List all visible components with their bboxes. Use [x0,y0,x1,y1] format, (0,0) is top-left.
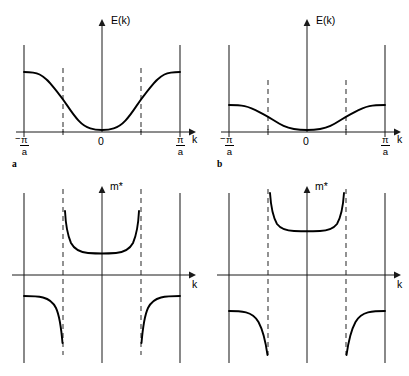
panel-d-svg [205,185,409,376]
mass-curve-right-negative [347,311,386,355]
y-axis-arrow [304,186,311,193]
y-axis-label-text: m* [315,180,328,192]
x-axis-label: k [192,279,197,290]
left-zone-tick-label: − π a [20,135,29,156]
numerator: π [176,135,185,145]
y-axis-arrow [304,19,311,26]
minus-sign: − [15,134,21,144]
y-axis-label-text: m* [110,180,123,192]
panel-b-energy-band: E(k) k 0 − π a π a b [205,0,409,188]
panel-a-svg [0,0,205,188]
figure-root: E(k) k 0 − π a π a a [0,0,409,376]
panel-label-b: b [217,160,222,170]
mass-curve-left-negative [229,311,268,355]
origin-label: 0 [303,136,309,147]
origin-label: 0 [98,136,104,147]
panel-c-svg [0,185,205,376]
y-axis-arrow [99,19,106,26]
panel-c-effective-mass: m* k [0,185,205,376]
y-axis-label-effective-mass: m* [315,181,328,192]
left-zone-tick-label: − π a [225,135,234,156]
numerator: π [20,135,29,145]
minus-sign: − [220,134,226,144]
x-axis-label: k [397,279,402,290]
y-axis-arrow [99,186,106,193]
denominator: a [176,147,185,157]
numerator: π [381,135,390,145]
mass-curve-left-negative [24,296,63,343]
panel-b-svg [205,0,409,188]
y-axis-label: E(k) [316,15,335,26]
right-zone-tick-label: π a [381,135,390,156]
denominator: a [20,147,29,157]
y-axis-label: E(k) [111,15,130,26]
y-axis-label-effective-mass: m* [110,181,123,192]
numerator: π [225,135,234,145]
x-axis-label: k [397,134,402,145]
panel-d-effective-mass: m* k [205,185,409,376]
panel-a-energy-band: E(k) k 0 − π a π a a [0,0,205,188]
x-axis-label: k [192,134,197,145]
mass-curve-right-negative [142,296,181,343]
right-zone-tick-label: π a [176,135,185,156]
denominator: a [381,147,390,157]
panel-label-a: a [12,160,17,170]
denominator: a [225,147,234,157]
